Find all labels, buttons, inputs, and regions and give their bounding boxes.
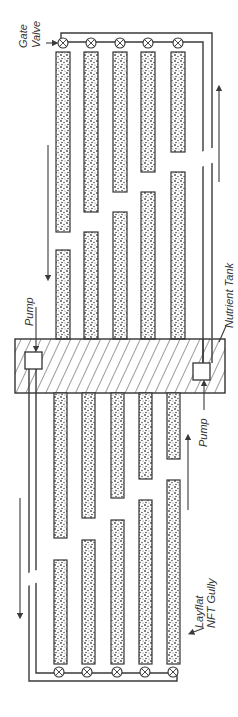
right-pump[interactable] [193,363,210,380]
nutrient-tank-label: Nutrient Tank [223,262,235,328]
gate-valve-icon[interactable] [143,38,153,48]
bottom-gate-valves [54,667,178,677]
gate-valve-icon[interactable] [173,38,183,48]
gate-valve-icon[interactable] [82,667,92,677]
gully-label: NFT Gully [205,577,217,628]
gate-valve-icon[interactable] [140,667,150,677]
gate-valve-icon[interactable] [168,667,178,677]
gate-valve-icon[interactable] [54,667,64,677]
top-gate-valves [58,38,183,48]
nft-system-diagram: Gate Valve Pump Nutrient Tank Pump Layfl… [0,0,238,717]
gate-valve-icon[interactable] [86,38,96,48]
gully-label: Layflat [193,595,205,628]
left-pump-label: Pump [23,297,35,326]
top-gullies [56,52,185,339]
gate-valve-label: Gate [17,24,29,48]
gate-valve-icon[interactable] [115,38,125,48]
gate-valve-icon[interactable] [58,38,68,48]
gate-valve-label: Valve [30,21,42,48]
bottom-pipework [29,393,177,681]
gate-valve-icon[interactable] [112,667,122,677]
left-pump[interactable] [25,352,42,369]
bottom-gullies [54,393,180,664]
right-pump-label: Pump [197,418,209,447]
